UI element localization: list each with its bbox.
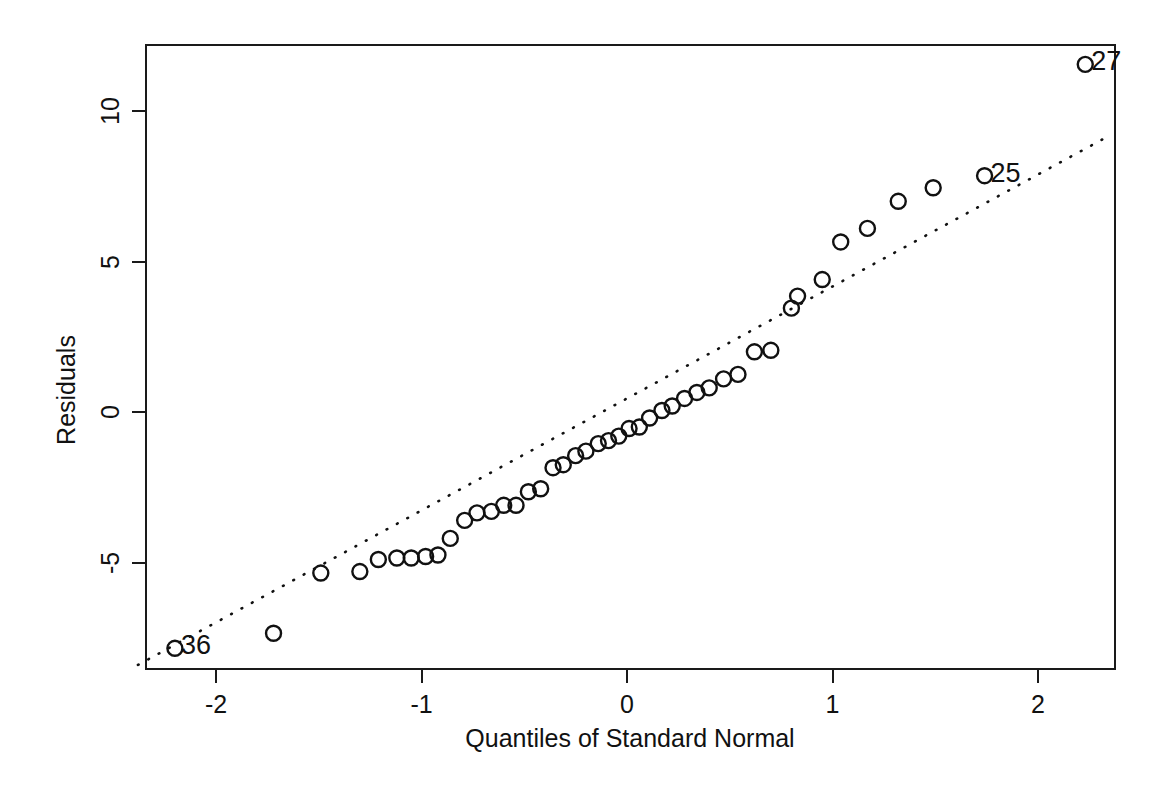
outlier-label: 25 (991, 158, 1021, 189)
x-axis-title: Quantiles of Standard Normal (465, 724, 794, 753)
x-tick-label: -1 (410, 690, 432, 719)
y-tick-mark (132, 411, 145, 413)
y-axis-title: Residuals (52, 335, 81, 445)
x-tick-mark (626, 670, 628, 683)
y-tick-label: -5 (96, 551, 125, 573)
x-tick-label: -2 (205, 690, 227, 719)
x-tick-label: 0 (620, 690, 634, 719)
x-tick-label: 1 (826, 690, 840, 719)
x-tick-mark (215, 670, 217, 683)
y-tick-mark (132, 110, 145, 112)
y-tick-mark (132, 261, 145, 263)
y-tick-mark (132, 562, 145, 564)
x-tick-label: 2 (1031, 690, 1045, 719)
qq-plot-figure: -2-1012 -50510 362527 Quantiles of Stand… (0, 0, 1169, 793)
x-tick-mark (421, 670, 423, 683)
x-tick-mark (1037, 670, 1039, 683)
y-tick-label: 5 (96, 255, 125, 269)
y-tick-label: 10 (96, 97, 125, 125)
outlier-label: 36 (181, 630, 211, 661)
plot-frame (145, 44, 1116, 670)
y-tick-label: 0 (96, 405, 125, 419)
x-tick-mark (832, 670, 834, 683)
outlier-label: 27 (1091, 46, 1121, 77)
